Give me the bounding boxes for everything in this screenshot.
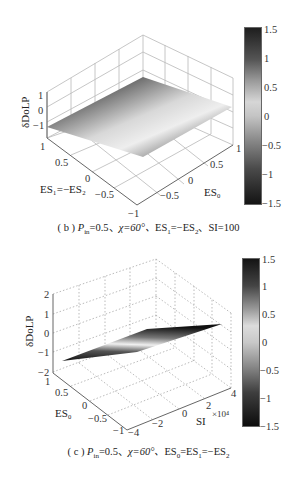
- cbar-b-tick: −1.5: [262, 198, 281, 209]
- cbar-c-tick: 1.5: [262, 254, 275, 265]
- cbar-c-tick: 0: [262, 337, 267, 348]
- chart-panel-b: 1 0 −1 δDoLP 1 0.5 0 −0.5 −1 ES₁=−ES₂ 1 …: [0, 0, 297, 240]
- cbar-b-tick: 1: [264, 53, 269, 64]
- plot-b-colorbar-ticks: 1.5 1 0.5 0 −0.5 −1 −1.5: [0, 0, 297, 240]
- cbar-c-tick: 1: [262, 281, 267, 292]
- plot-c-caption: ( c ) Pin=0.5、χ=60°、ES0=ES1=−ES2: [0, 443, 297, 460]
- cbar-b-tick: 1.5: [264, 24, 277, 35]
- cbar-b-tick: 0: [264, 111, 269, 122]
- plot-b-caption: ( b ) Pin=0.5、χ=60°、ES1=−ES2、SI=100: [0, 219, 297, 236]
- cbar-c-tick: −1: [260, 393, 271, 404]
- cbar-b-tick: −1: [262, 169, 273, 180]
- cbar-b-tick: −0.5: [262, 140, 281, 151]
- chart-panel-c: 2 1 0 −1 −2 δDoLP 1 0.5 0 −0.5 −1 ES₀ −4…: [0, 240, 297, 485]
- cbar-c-tick: 0.5: [262, 309, 275, 320]
- cbar-b-tick: 0.5: [264, 82, 277, 93]
- cbar-c-tick: −1.5: [260, 421, 279, 432]
- cbar-c-tick: −0.5: [260, 365, 279, 376]
